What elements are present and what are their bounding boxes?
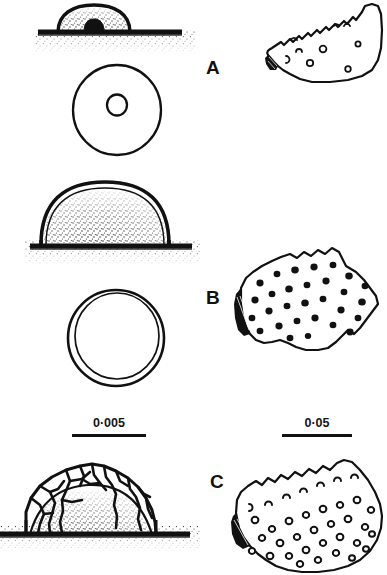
panel-c-fragment [231, 460, 382, 572]
panel-label-c: C [210, 472, 224, 491]
scientific-figure: A B C 0·005 0·05 [0, 0, 387, 575]
figure-artwork [0, 0, 387, 575]
profile-scale-bar: 0·005 [72, 417, 146, 437]
panel-b-plan-view [68, 290, 164, 386]
panel-label-b: B [206, 288, 220, 307]
panel-c-profile [0, 464, 200, 553]
panel-a-profile [35, 5, 195, 54]
fragment-scale-bar: 0·05 [282, 417, 352, 437]
panel-b-profile [25, 182, 200, 266]
fragment-scale-bar-rule [282, 434, 352, 437]
profile-scale-bar-label: 0·005 [72, 417, 146, 430]
profile-scale-bar-rule [72, 434, 146, 437]
panel-label-a: A [206, 58, 220, 77]
panel-a-plan-view [73, 65, 161, 155]
panel-a-fragment [265, 4, 382, 82]
panel-b-fragment [234, 248, 378, 350]
fragment-scale-bar-label: 0·05 [282, 417, 352, 430]
